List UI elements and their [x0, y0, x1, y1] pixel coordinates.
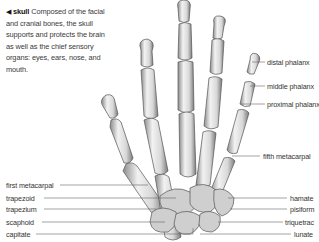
- label-capitate: capitate: [6, 230, 30, 239]
- ring-finger-bones: [196, 16, 225, 188]
- label-hamate: hamate: [290, 194, 313, 203]
- label-pisiform: pisiform: [290, 205, 314, 214]
- label-trapezium: trapezium: [6, 205, 37, 214]
- skull-caption: ◀ skull Composed of the facial and crani…: [6, 6, 114, 75]
- label-lunate: lunate: [294, 230, 313, 239]
- label-middle-phalanx: middle phalanx: [267, 82, 314, 91]
- label-triquetrac: triquetrac: [285, 218, 314, 227]
- label-first-metacarpal: first metacarpal: [6, 181, 54, 190]
- arrow-left-icon: ◀: [6, 8, 11, 15]
- caption-text: Composed of the facial and cranial bones…: [6, 7, 105, 74]
- label-fifth-metacarpal: fifth metacarpal: [263, 152, 311, 161]
- label-distal-phalanx: distal phalanx: [267, 58, 310, 67]
- label-scaphoid: scaphoid: [6, 218, 34, 227]
- caption-heading: skull: [13, 7, 29, 16]
- label-proximal-phalanx: proximal phalanx: [267, 100, 319, 109]
- middle-finger-bones: [178, 0, 196, 177]
- label-trapezoid: trapezoid: [6, 194, 35, 203]
